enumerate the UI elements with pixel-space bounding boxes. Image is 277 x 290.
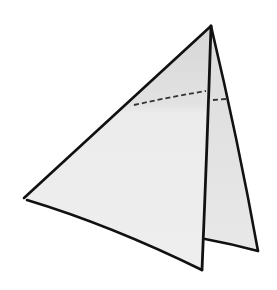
back-flap [205,26,258,251]
front-face [24,26,211,270]
diagram-canvas [0,0,277,290]
folded-paper-diagram [0,0,277,290]
